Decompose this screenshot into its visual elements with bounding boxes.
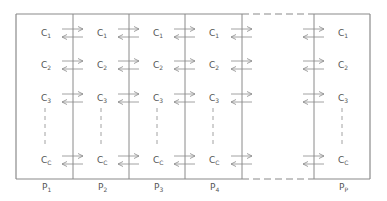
processor-label: P4: [210, 182, 219, 193]
cell-label: CC: [97, 155, 108, 166]
cell-label: C1: [209, 28, 219, 39]
cell-label: C2: [97, 60, 107, 71]
cell-label: C1: [97, 28, 107, 39]
cell-label: C3: [338, 93, 348, 104]
cell-label: CC: [338, 155, 349, 166]
cell-label: C3: [209, 93, 219, 104]
cell-label: CC: [153, 155, 164, 166]
cell-label: C3: [153, 93, 163, 104]
cell-label: CC: [209, 155, 220, 166]
processor-label: P1: [42, 182, 51, 193]
cell-label: C3: [97, 93, 107, 104]
processor-label: P3: [154, 182, 163, 193]
cell-label: C1: [153, 28, 163, 39]
labels: C1C2C3CCP1C1C2C3CCP2C1C2C3CCP3C1C2C3CCP4…: [41, 28, 349, 193]
cell-label: CC: [41, 155, 52, 166]
processor-label: P2: [98, 182, 107, 193]
processor-label: PP: [339, 182, 348, 193]
cell-label: C3: [41, 93, 51, 104]
cell-label: C2: [41, 60, 51, 71]
partition-diagram: C1C2C3CCP1C1C2C3CCP2C1C2C3CCP3C1C2C3CCP4…: [0, 0, 387, 201]
grid-frame: [16, 14, 370, 179]
cell-label: C1: [338, 28, 348, 39]
cell-label: C2: [153, 60, 163, 71]
cell-label: C2: [338, 60, 348, 71]
cell-label: C1: [41, 28, 51, 39]
cell-label: C2: [209, 60, 219, 71]
